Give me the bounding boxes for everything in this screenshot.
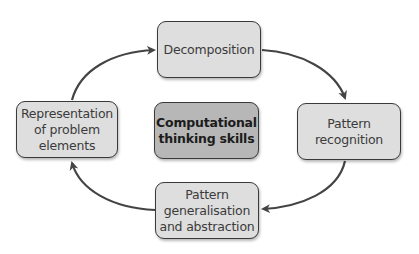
node-pattern-generalisation: Pattern generalisation and abstraction [155, 182, 259, 239]
node-label: Pattern generalisation and abstraction [159, 187, 254, 235]
arrow-pattern-recognition-to-generalisation [263, 161, 345, 209]
node-label: Pattern recognition [315, 116, 383, 148]
node-representation: Representation of problem elements [16, 101, 118, 158]
node-pattern-recognition: Pattern recognition [297, 103, 401, 160]
node-label: Decomposition [164, 42, 255, 58]
arrow-decomposition-to-pattern-recognition [262, 50, 345, 98]
node-decomposition: Decomposition [157, 21, 261, 78]
arrow-representation-to-decomposition [72, 50, 154, 100]
cycle-diagram: Decomposition Pattern recognition Patter… [0, 0, 419, 254]
arrow-generalisation-to-representation [72, 163, 155, 210]
node-center-computational-thinking: Computational thinking skills [154, 102, 259, 159]
center-label: Computational thinking skills [156, 115, 257, 147]
node-label: Representation of problem elements [21, 106, 113, 154]
